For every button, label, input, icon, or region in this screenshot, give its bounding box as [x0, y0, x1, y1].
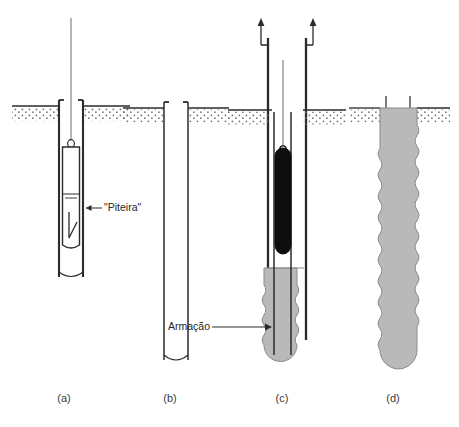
panel-caption-row: (a) (b) (c) (d) [0, 392, 459, 412]
panel-caption-c: (c) [262, 392, 302, 404]
panel-d [349, 96, 450, 369]
annotation-piteira-label: "Piteira" [104, 201, 141, 213]
panel-caption-a: (a) [44, 392, 84, 404]
borehole-bottom-b [164, 355, 188, 360]
casing-withdrawal-arrow-left-icon [258, 18, 268, 45]
panel-a [12, 18, 130, 277]
soil-hatch-c-left [228, 112, 270, 125]
soil-hatch-a-right [83, 108, 130, 121]
soil-hatch-d-right [417, 110, 450, 123]
soil-hatch-d-left [349, 110, 380, 123]
casing-withdrawal-arrow-right-icon [306, 18, 316, 45]
annotation-armacao-label: Armação [168, 320, 210, 332]
figure-canvas [0, 0, 459, 427]
completed-pile-d [378, 108, 419, 369]
piteira-leader-arrow [86, 205, 92, 211]
concrete-fill-c [262, 268, 299, 362]
soil-hatch-a-left [12, 108, 59, 121]
panel-caption-d: (d) [373, 392, 413, 404]
soil-hatch-b-left [123, 110, 164, 123]
concreting-bucket-c [275, 148, 291, 254]
soil-hatch-b-right [188, 110, 229, 123]
borehole-bottom-a [59, 272, 83, 277]
panel-caption-b: (b) [150, 392, 190, 404]
panel-c [212, 18, 346, 362]
soil-hatch-c-right [303, 112, 346, 125]
lifting-eye-a [68, 140, 75, 148]
pile-construction-figure: "Piteira" Armação (a) (b) (c) (d) [0, 0, 459, 427]
